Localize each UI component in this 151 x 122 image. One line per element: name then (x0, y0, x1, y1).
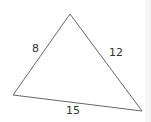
side-label-bottom: 15 (66, 105, 80, 116)
triangle (13, 14, 142, 111)
side-label-right: 12 (109, 47, 123, 58)
side-label-left: 8 (32, 43, 39, 54)
